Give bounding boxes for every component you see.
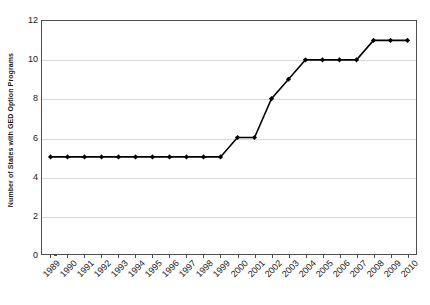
- y-axis-tick-label: 10: [16, 54, 38, 64]
- data-point-marker: [99, 154, 104, 159]
- data-point-marker: [133, 154, 138, 159]
- data-point-marker: [184, 154, 189, 159]
- data-point-marker: [48, 154, 53, 159]
- x-axis-tick-label: 2000: [228, 258, 249, 279]
- data-point-marker: [201, 154, 206, 159]
- x-axis-tick-label: 1990: [57, 258, 78, 279]
- x-axis-tick-label: 2006: [331, 258, 352, 279]
- x-axis-tick-label: 2001: [245, 258, 266, 279]
- x-axis-tick-label: 1989: [40, 258, 61, 279]
- y-axis-tick-label: 2: [16, 211, 38, 221]
- y-axis-tick-label: 6: [16, 133, 38, 143]
- x-axis-tick-label: 1993: [109, 258, 130, 279]
- x-axis-tick-label: 1998: [194, 258, 215, 279]
- y-axis-tick-labels: 024681012: [16, 14, 38, 256]
- data-point-marker: [65, 154, 70, 159]
- x-axis-tick-label: 1996: [160, 258, 181, 279]
- x-axis-tick-label: 2002: [263, 258, 284, 279]
- data-point-marker: [252, 135, 257, 140]
- x-axis-tick-label: 2009: [382, 258, 403, 279]
- line-chart: Number of States with GED Option Program…: [0, 0, 430, 305]
- y-axis-tick-label: 12: [16, 15, 38, 25]
- data-point-marker: [337, 57, 342, 62]
- x-axis-tick-label: 1991: [75, 258, 96, 279]
- x-axis-tick-label: 1997: [177, 258, 198, 279]
- y-axis-tick-label: 0: [16, 250, 38, 260]
- x-axis-tick-label: 2003: [280, 258, 301, 279]
- series-line: [51, 40, 408, 157]
- x-axis-tick-label: 1992: [92, 258, 113, 279]
- data-point-marker: [388, 38, 393, 43]
- data-series-line: [42, 21, 416, 254]
- data-point-marker: [320, 57, 325, 62]
- x-axis-tick-label: 2004: [297, 258, 318, 279]
- data-point-marker: [82, 154, 87, 159]
- data-point-marker: [116, 154, 121, 159]
- data-point-marker: [405, 38, 410, 43]
- x-axis-tick-label: 1999: [211, 258, 232, 279]
- data-point-marker: [150, 154, 155, 159]
- x-axis-tick-label: 2005: [314, 258, 335, 279]
- plot-area: [41, 20, 417, 255]
- y-axis-tick-label: 8: [16, 93, 38, 103]
- y-axis-tick-label: 4: [16, 172, 38, 182]
- x-axis-tick-label: 2008: [365, 258, 386, 279]
- x-axis-tick-label: 1995: [143, 258, 164, 279]
- x-axis-tick-label: 1994: [126, 258, 147, 279]
- x-axis-tick-label: 2010: [399, 258, 420, 279]
- data-point-marker: [167, 154, 172, 159]
- x-axis-tick-labels: 1989199019911992199319941995199619971998…: [41, 258, 417, 304]
- x-axis-tick-label: 2007: [348, 258, 369, 279]
